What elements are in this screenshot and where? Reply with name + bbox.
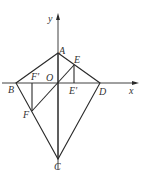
point-A-label: A	[58, 45, 66, 56]
point-C-label: C	[54, 161, 61, 172]
y-axis-arrow-icon	[56, 13, 60, 20]
point-F-label: F	[22, 109, 30, 120]
point-D-label: D	[98, 86, 107, 97]
point-F-prime-label: F'	[30, 71, 40, 82]
point-E-prime-label: E'	[68, 85, 78, 96]
y-axis-label: y	[47, 13, 53, 24]
x-axis-label: x	[128, 85, 134, 96]
origin-label: O	[46, 72, 53, 83]
point-B-label: B	[8, 84, 14, 95]
point-E-label: E	[73, 54, 80, 65]
geometry-diagram: x y O A B C D E E' F F'	[0, 0, 145, 181]
